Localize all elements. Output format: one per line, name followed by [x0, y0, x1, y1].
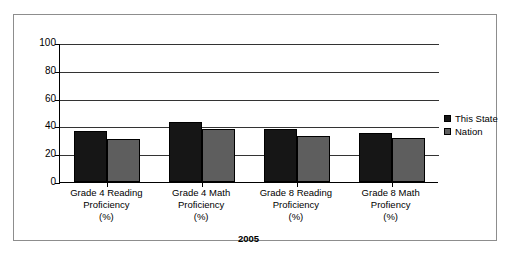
x-axis-category-label: Grade 8 Math Profiency (%) [343, 187, 438, 223]
bar-group [74, 43, 140, 182]
legend-swatch-icon [444, 115, 451, 122]
x-axis-category-label: Grade 8 Reading Proficiency (%) [249, 187, 344, 223]
bar-this-state [74, 131, 107, 182]
bar-nation [392, 138, 425, 182]
bar-group [359, 43, 425, 182]
bar-nation [107, 139, 140, 182]
bar-group [264, 43, 330, 182]
y-axis-tick-label: 60 [30, 93, 56, 105]
bar-this-state [169, 122, 202, 182]
legend-item: Nation [444, 125, 498, 138]
y-axis-tick-label: 100 [30, 37, 56, 49]
y-axis-tick-label: 0 [30, 176, 56, 188]
bar-this-state [359, 133, 392, 182]
plot-area: 020406080100 [59, 44, 438, 183]
bar-this-state [264, 129, 297, 182]
legend-label: This State [455, 112, 498, 125]
chart-figure: 020406080100 Grade 4 Reading Proficiency… [0, 0, 505, 259]
x-axis-category-label: Grade 4 Math Proficiency (%) [154, 187, 249, 223]
legend-item: This State [444, 112, 498, 125]
bar-group [169, 43, 235, 182]
figure-frame: 020406080100 Grade 4 Reading Proficiency… [13, 14, 497, 241]
y-axis-tick-label: 20 [30, 148, 56, 160]
bar-nation [202, 129, 235, 182]
y-axis-tick-label: 80 [30, 65, 56, 77]
x-axis-title: 2005 [59, 233, 438, 244]
legend-label: Nation [455, 125, 482, 138]
bar-nation [297, 136, 330, 182]
y-axis-tick-label: 40 [30, 120, 56, 132]
x-axis-category-label: Grade 4 Reading Proficiency (%) [59, 187, 154, 223]
legend-swatch-icon [444, 128, 451, 135]
chart-legend: This StateNation [444, 112, 498, 138]
